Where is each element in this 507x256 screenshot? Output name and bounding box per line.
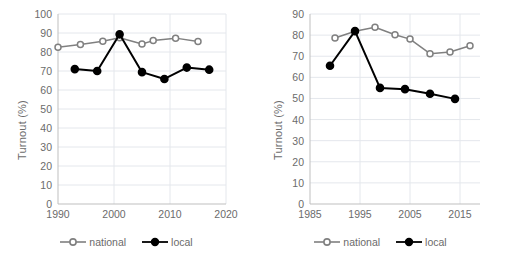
legend-item-national[interactable]: national: [60, 236, 126, 248]
chart-panel-right: Turnout (%) 0102030405060708090 19851995…: [254, 0, 507, 256]
plot-area-right: [310, 14, 480, 204]
legend-label-national: national: [89, 236, 126, 248]
legend-label-local: local: [425, 236, 447, 248]
legend-marker-local-icon: [142, 237, 168, 247]
legend-item-local[interactable]: local: [396, 236, 447, 248]
x-tick-label: 2005: [398, 208, 421, 220]
legend-marker-local-icon: [396, 237, 422, 247]
legend-left: national local: [0, 236, 253, 248]
chart-panel-left: Turnout (%) 0102030405060708090100 19902…: [0, 0, 253, 256]
legend-marker-national-icon: [60, 237, 86, 247]
legend-item-national[interactable]: national: [314, 236, 380, 248]
legend-label-national: national: [343, 236, 380, 248]
legend-right: national local: [254, 236, 507, 248]
plot-area-left: [58, 14, 226, 204]
x-tick-label: 2000: [102, 208, 125, 220]
legend-item-local[interactable]: local: [142, 236, 193, 248]
legend-marker-national-icon: [314, 237, 340, 247]
x-tick-label: 2010: [158, 208, 181, 220]
chart-figure: Turnout (%) 0102030405060708090100 19902…: [0, 0, 507, 256]
x-tick-label: 1995: [348, 208, 371, 220]
x-tick-label: 2015: [448, 208, 471, 220]
legend-label-local: local: [171, 236, 193, 248]
x-tick-label: 1985: [298, 208, 321, 220]
x-tick-label: 2020: [214, 208, 237, 220]
x-tick-label: 1990: [46, 208, 69, 220]
